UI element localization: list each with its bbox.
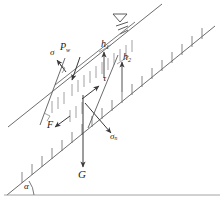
label-pw: Pw	[60, 42, 70, 53]
label-weight-g: G	[78, 169, 86, 180]
ground-surface-line	[8, 4, 162, 127]
force-f-arrow	[55, 116, 70, 127]
label-sigma: σ	[50, 48, 54, 57]
slice-hatch-lower-icon	[52, 92, 82, 122]
figure-canvas: σ Pw h1 h2 τ F σn G α	[0, 0, 224, 204]
slope-angle-arc	[29, 181, 34, 195]
label-force-f: F	[47, 120, 53, 130]
label-h2: h2	[123, 52, 131, 63]
slip-surface-line	[7, 26, 215, 195]
slope-diagram-svg	[0, 0, 224, 204]
slice-element	[40, 22, 135, 128]
water-table-icon	[113, 14, 128, 34]
label-h1: h1	[101, 39, 109, 50]
pw-arrow	[72, 57, 80, 80]
label-tau: τ	[103, 74, 106, 83]
tau-arrow	[82, 86, 99, 99]
label-alpha: α	[24, 182, 29, 191]
label-sigma-n: σn	[110, 132, 117, 142]
sigma-arrow	[57, 60, 66, 72]
slope-hatch-icon	[22, 28, 202, 183]
